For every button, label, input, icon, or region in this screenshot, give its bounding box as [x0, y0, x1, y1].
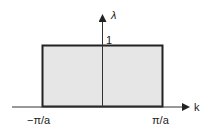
- right-boundary-label: π/a: [152, 115, 169, 126]
- height-label: 1: [106, 35, 112, 46]
- y-axis-label: λ: [111, 10, 116, 21]
- left-boundary-label: −π/a: [27, 115, 50, 126]
- x-axis-label: k: [194, 102, 200, 113]
- diagram: λ 1 k −π/a π/a: [0, 0, 210, 134]
